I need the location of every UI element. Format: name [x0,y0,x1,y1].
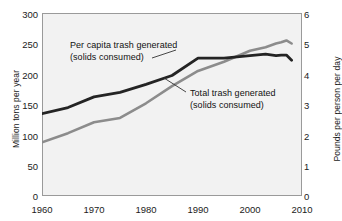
y-tick-right-3: 3 [304,100,330,111]
per-capita-annotation: Per capita trash generated (solids consu… [70,40,177,63]
y-tick-right-5: 5 [304,39,330,50]
x-tick-1980: 1980 [126,204,166,215]
y-axis-right-title: Pounds per person per day [332,44,342,174]
y-tick-left-0: 0 [12,191,38,202]
x-tick-1960: 1960 [22,204,62,215]
x-tick-1970: 1970 [74,204,114,215]
y-tick-right-6: 6 [304,9,330,20]
y-tick-right-0: 0 [304,191,330,202]
y-tick-left-200: 200 [12,70,38,81]
y-tick-right-1: 1 [304,161,330,172]
y-tick-left-100: 100 [12,131,38,142]
y-tick-right-4: 4 [304,70,330,81]
x-tick-2000: 2000 [230,204,270,215]
y-tick-left-150: 150 [12,100,38,111]
y-tick-left-300: 300 [12,9,38,20]
x-tick-2010: 2010 [282,204,322,215]
y-tick-right-2: 2 [304,131,330,142]
total-annotation: Total trash generated (solids consumed) [190,88,276,111]
y-tick-left-250: 250 [12,39,38,50]
y-tick-left-50: 50 [12,161,38,172]
x-tick-1990: 1990 [178,204,218,215]
